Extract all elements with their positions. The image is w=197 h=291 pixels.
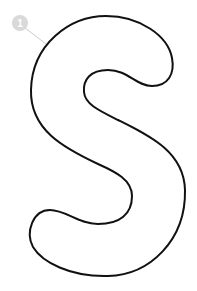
- letter-s-outline: [30, 16, 185, 276]
- marker-number: 1: [17, 18, 23, 29]
- letter-s-outline-figure: 1: [0, 0, 197, 291]
